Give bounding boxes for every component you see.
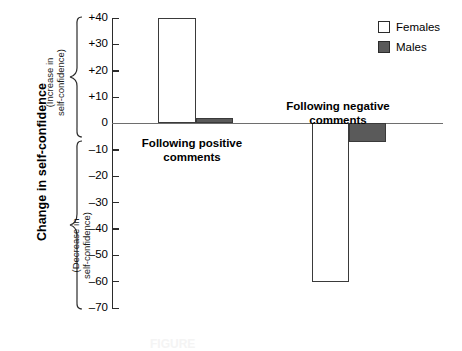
- bar-males-group-0: [196, 118, 233, 123]
- group-label-line1: Following positive: [142, 137, 242, 149]
- y-tick-mark: [112, 202, 119, 203]
- y-tick-label: 0: [74, 117, 108, 129]
- y-tick-label: –30: [74, 197, 108, 209]
- y-tick-label: –60: [74, 276, 108, 288]
- legend-label-males: Males: [396, 41, 427, 53]
- legend-item-males: Males: [378, 38, 440, 55]
- group-label-line2: comments: [163, 151, 221, 163]
- y-tick-label: +40: [74, 12, 108, 24]
- y-tick-mark: [112, 44, 119, 45]
- y-tick-label: –10: [74, 144, 108, 156]
- y-tick-mark: [112, 18, 119, 19]
- figure-caption: FIGURE: [150, 337, 400, 351]
- y-tick-mark: [112, 228, 119, 229]
- increase-annotation-line1: (Increase in: [44, 58, 55, 108]
- y-tick-label: –70: [74, 302, 108, 314]
- y-tick-mark: [112, 149, 119, 150]
- bar-females-group-1: [312, 123, 349, 281]
- y-tick-mark: [112, 176, 119, 177]
- y-tick-label: +10: [74, 91, 108, 103]
- legend: Females Males: [378, 18, 440, 58]
- y-tick-label: –50: [74, 249, 108, 261]
- bar-chart: Change in self-confidence (Increase in s…: [0, 0, 462, 351]
- y-tick-label: –40: [74, 223, 108, 235]
- y-tick-mark: [112, 70, 119, 71]
- group-label-line2: comments: [309, 114, 367, 126]
- filled-square-swatch-icon: [378, 41, 390, 53]
- increase-annotation-line2: self-confidence): [54, 49, 65, 116]
- y-tick-label: +30: [74, 38, 108, 50]
- open-square-swatch-icon: [378, 21, 390, 33]
- legend-item-females: Females: [378, 18, 440, 35]
- increase-annotation: (Increase in self-confidence): [45, 21, 66, 145]
- bar-females-group-0: [158, 18, 196, 123]
- group-label-line1: Following negative: [286, 100, 390, 112]
- y-tick-mark: [112, 97, 119, 98]
- y-axis-line: [112, 18, 113, 308]
- y-tick-mark: [112, 255, 119, 256]
- y-tick-label: –20: [74, 170, 108, 182]
- y-tick-label: +20: [74, 65, 108, 77]
- y-tick-mark: [112, 308, 119, 309]
- group-label-following-negative-comments: Following negative comments: [268, 100, 408, 127]
- group-label-following-positive-comments: Following positive comments: [122, 137, 262, 164]
- y-tick-mark: [112, 281, 119, 282]
- legend-label-females: Females: [396, 21, 440, 33]
